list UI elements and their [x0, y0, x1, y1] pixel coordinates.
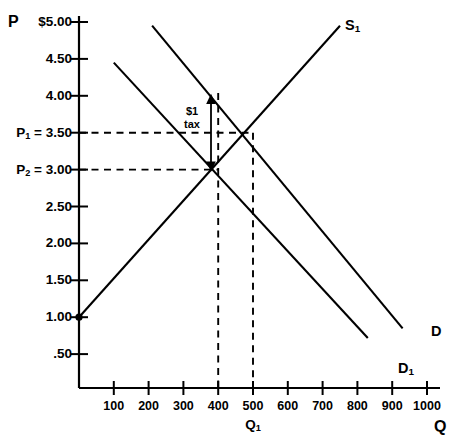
- tax-annotation: $1tax: [176, 105, 208, 132]
- x-tick-label-100: 100: [103, 400, 124, 413]
- x-tick-label-400: 400: [208, 400, 229, 413]
- supply-curve-s1: [79, 26, 340, 318]
- supply-origin-dot: [75, 314, 82, 321]
- chart-canvas: [0, 0, 459, 446]
- q1-label-text: Q: [245, 417, 256, 432]
- price-label-p2-prefix: P: [16, 162, 25, 177]
- p-axis-name: P: [8, 14, 19, 30]
- demand-curve-d1: [114, 63, 368, 338]
- x-tick-label-700: 700: [312, 400, 333, 413]
- q1-label-sub: 1: [256, 423, 261, 433]
- price-label-p1-value: 3.50: [46, 125, 72, 140]
- curve-label-d1: D1: [398, 361, 414, 376]
- y-tick-label-2-00: 2.00: [0, 237, 72, 251]
- curve-label-d1-sub: 1: [408, 366, 413, 377]
- x-tick-label-800: 800: [347, 400, 368, 413]
- curve-label-d: D: [431, 324, 441, 339]
- price-label-p1-sub: 1: [25, 131, 30, 141]
- price-label-p1-eq: =: [30, 125, 45, 140]
- demand-curve-d: [152, 26, 403, 329]
- x-tick-label-900: 900: [382, 400, 403, 413]
- price-label-p1: P1 = 3.50: [0, 126, 72, 140]
- y-tick-label-4-00: 4.00: [0, 89, 72, 103]
- supply-demand-chart: $5.00 4.50 4.00 2.50 2.00 1.50 1.00 .50 …: [0, 0, 459, 446]
- price-label-p2-sub: 2: [25, 168, 30, 178]
- price-label-p1-prefix: P: [16, 125, 25, 140]
- y-tick-label-4-50: 4.50: [0, 52, 72, 66]
- price-label-p2: P2 = 3.00: [0, 163, 72, 177]
- q-axis-name: Q: [434, 419, 446, 435]
- y-tick-label-2-50: 2.50: [0, 200, 72, 214]
- y-tick-label-1-00: 1.00: [0, 310, 72, 324]
- price-label-p2-value: 3.00: [46, 162, 72, 177]
- curve-label-s1: S1: [345, 18, 360, 33]
- curve-label-d1-text: D: [398, 360, 408, 376]
- tax-annotation-line1: $1: [186, 105, 198, 117]
- q1-equilibrium-label: Q1: [245, 418, 261, 432]
- y-tick-label-0-50: .50: [0, 347, 72, 361]
- x-tick-label-200: 200: [138, 400, 159, 413]
- x-tick-label-600: 600: [277, 400, 298, 413]
- x-tick-label-1000: 1000: [413, 400, 441, 413]
- curve-label-s1-text: S: [345, 17, 355, 33]
- x-tick-label-300: 300: [173, 400, 194, 413]
- y-tick-label-1-50: 1.50: [0, 274, 72, 288]
- curve-label-s1-sub: 1: [355, 23, 360, 34]
- price-label-p2-eq: =: [30, 162, 45, 177]
- x-tick-label-500: 500: [243, 400, 264, 413]
- tax-annotation-line2: tax: [184, 118, 200, 130]
- reference-lines: [79, 93, 253, 388]
